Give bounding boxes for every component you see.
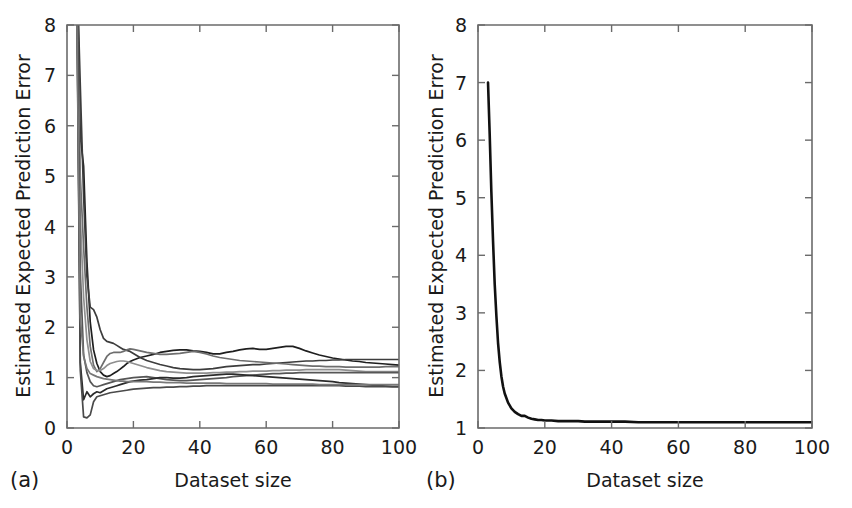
panel-b-yaxis-label: Estimated Expected Prediction Error <box>426 54 447 398</box>
y-tick-label: 7 <box>455 72 467 94</box>
x-tick-label: 20 <box>533 436 557 458</box>
y-tick-label: 5 <box>44 165 56 187</box>
panel-a-plot-group: 012345678020406080100 Dataset size Estim… <box>10 0 417 492</box>
series-line-run-4 <box>77 10 399 373</box>
y-tick-label: 1 <box>44 367 56 389</box>
x-tick-label: 100 <box>381 436 417 458</box>
y-tick-label: 8 <box>455 14 467 36</box>
x-tick-label: 0 <box>472 436 484 458</box>
figure-container: 012345678020406080100 Dataset size Estim… <box>0 0 852 508</box>
y-tick-label: 0 <box>44 417 56 439</box>
series-line-run-2 <box>77 0 399 370</box>
x-tick-label: 0 <box>61 436 73 458</box>
series-line-run-3 <box>77 0 399 372</box>
panel-b-tag: (b) <box>426 468 456 492</box>
y-tick-label: 5 <box>455 187 467 209</box>
x-tick-label: 60 <box>254 436 278 458</box>
y-tick-label: 2 <box>44 316 56 338</box>
y-tick-label: 8 <box>44 14 56 36</box>
y-tick-label: 2 <box>455 359 467 381</box>
y-tick-label: 4 <box>455 244 467 266</box>
y-tick-label: 6 <box>44 115 56 137</box>
x-tick-label: 40 <box>600 436 624 458</box>
y-tick-label: 1 <box>455 417 467 439</box>
series-line-run-8 <box>77 25 399 385</box>
series-line-run-1 <box>77 0 399 377</box>
panel-b-axes: 12345678020406080100 <box>455 14 830 458</box>
x-tick-label: 60 <box>666 436 690 458</box>
chart-panel-b: 12345678020406080100 Dataset size Estima… <box>426 0 852 508</box>
panel-a-xaxis-label: Dataset size <box>174 469 291 491</box>
panel-a-tag: (a) <box>10 468 39 492</box>
series-line-run-5 <box>77 0 399 387</box>
panel-a-yaxis-label: Estimated Expected Prediction Error <box>12 54 34 398</box>
series-line-run-7 <box>77 15 399 418</box>
x-tick-label: 80 <box>321 436 345 458</box>
y-tick-label: 7 <box>44 64 56 86</box>
chart-panel-a: 012345678020406080100 Dataset size Estim… <box>0 0 426 508</box>
panel-b-svg: 12345678020406080100 Dataset size Estima… <box>426 0 852 508</box>
y-tick-label: 3 <box>44 266 56 288</box>
series-line-expected-error <box>488 83 812 423</box>
panel-a-series-group <box>77 0 399 418</box>
x-tick-label: 20 <box>121 436 145 458</box>
x-tick-label: 100 <box>794 436 830 458</box>
y-tick-label: 3 <box>455 302 467 324</box>
y-tick-label: 6 <box>455 129 467 151</box>
y-tick-label: 4 <box>44 216 56 238</box>
x-tick-label: 80 <box>733 436 757 458</box>
panel-a-axes: 012345678020406080100 <box>44 14 417 458</box>
panel-b-series-group <box>488 83 812 423</box>
plot-frame <box>478 25 812 428</box>
panel-a-svg: 012345678020406080100 Dataset size Estim… <box>0 0 426 508</box>
panel-b-plot-group: 12345678020406080100 Dataset size Estima… <box>426 14 830 492</box>
series-line-run-6 <box>77 0 399 400</box>
panel-b-xaxis-label: Dataset size <box>586 469 703 491</box>
x-tick-label: 40 <box>188 436 212 458</box>
